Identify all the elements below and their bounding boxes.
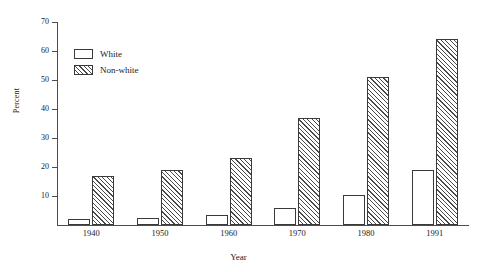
bar-white xyxy=(137,218,159,225)
y-axis-tick: 30 xyxy=(52,138,57,139)
bar-white xyxy=(274,208,296,225)
y-axis-tick: 20 xyxy=(52,167,57,168)
legend-swatch-white-icon xyxy=(74,49,93,59)
bar-non-white xyxy=(367,77,389,225)
y-axis-tick-label: 70 xyxy=(41,17,49,26)
bar-chart: Percent 10203040506070 19401950196019701… xyxy=(0,0,477,272)
y-axis-label: Percent xyxy=(12,71,21,131)
bar-non-white xyxy=(161,170,183,225)
legend-label-white: White xyxy=(100,49,122,59)
x-axis-tick-label: 1950 xyxy=(137,228,183,238)
y-axis-tick: 70 xyxy=(52,22,57,23)
bar-group: 1991 xyxy=(412,22,458,225)
x-axis-label: Year xyxy=(0,252,477,262)
y-axis-tick-label: 60 xyxy=(41,46,49,55)
y-axis-tick-label: 40 xyxy=(41,104,49,113)
bar-group: 1980 xyxy=(343,22,389,225)
x-axis-tick-label: 1991 xyxy=(412,228,458,238)
bar-white xyxy=(412,170,434,225)
legend: White Non-white xyxy=(74,46,139,78)
y-axis-tick-label: 50 xyxy=(41,75,49,84)
bar-white xyxy=(206,215,228,225)
legend-item-white: White xyxy=(74,46,139,62)
x-axis-tick-label: 1980 xyxy=(343,228,389,238)
y-axis-tick-label: 20 xyxy=(41,162,49,171)
y-axis-tick-label: 10 xyxy=(41,191,49,200)
bar-non-white xyxy=(298,118,320,225)
legend-swatch-non-white-icon xyxy=(74,65,93,75)
bar-non-white xyxy=(436,39,458,225)
legend-item-non-white: Non-white xyxy=(74,62,139,78)
x-axis-line xyxy=(57,225,469,226)
bar-group: 1960 xyxy=(206,22,252,225)
y-axis-line xyxy=(57,22,58,226)
y-axis-tick: 40 xyxy=(52,109,57,110)
x-axis-tick-label: 1960 xyxy=(206,228,252,238)
y-axis-tick: 10 xyxy=(52,196,57,197)
y-axis-tick: 60 xyxy=(52,51,57,52)
bar-non-white xyxy=(92,176,114,225)
y-axis-tick-label: 30 xyxy=(41,133,49,142)
x-axis-tick-label: 1940 xyxy=(68,228,114,238)
bar-white xyxy=(343,195,365,225)
bar-group: 1970 xyxy=(274,22,320,225)
legend-label-non-white: Non-white xyxy=(100,65,139,75)
bar-white xyxy=(68,219,90,225)
y-axis-tick: 50 xyxy=(52,80,57,81)
x-axis-tick-label: 1970 xyxy=(274,228,320,238)
bar-group: 1950 xyxy=(137,22,183,225)
bar-non-white xyxy=(230,158,252,225)
